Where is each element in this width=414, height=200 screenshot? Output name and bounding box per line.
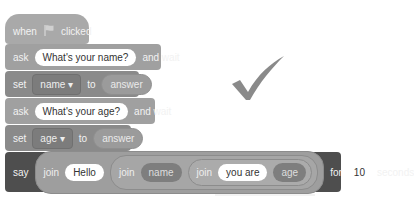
seconds-label: seconds xyxy=(377,167,414,178)
question-input[interactable]: What's your age? xyxy=(35,103,129,120)
say-for-seconds-block[interactable]: say join Hello join name join you are ag… xyxy=(5,152,341,192)
join-reporter[interactable]: join name join you are age xyxy=(110,155,318,190)
and-wait-label: and wait xyxy=(142,52,179,63)
for-label: for xyxy=(330,167,342,178)
ask-label: ask xyxy=(13,106,29,117)
say-label: say xyxy=(13,167,29,178)
set-name-block[interactable]: set name ▾ to answer xyxy=(5,71,139,97)
age-variable-reporter[interactable]: age xyxy=(273,163,306,182)
hello-input[interactable]: Hello xyxy=(65,164,104,181)
to-label: to xyxy=(79,133,87,144)
seconds-input[interactable]: 10 xyxy=(348,164,371,181)
variable-dropdown[interactable]: age ▾ xyxy=(32,128,72,149)
join-reporter[interactable]: join you are age xyxy=(188,159,313,186)
variable-dropdown[interactable]: name ▾ xyxy=(32,74,81,95)
set-age-block[interactable]: set age ▾ to answer xyxy=(5,125,131,151)
divider xyxy=(215,194,315,196)
question-input[interactable]: What's your name? xyxy=(35,49,137,66)
clicked-label: clicked xyxy=(61,26,92,37)
when-flag-clicked-block[interactable]: when clicked xyxy=(5,14,89,44)
you-are-input[interactable]: you are xyxy=(218,164,267,181)
join-label: join xyxy=(197,167,213,178)
set-label: set xyxy=(13,79,26,90)
and-wait-label: and wait xyxy=(134,106,171,117)
answer-reporter[interactable]: answer xyxy=(93,128,143,149)
name-variable-reporter[interactable]: name xyxy=(141,163,182,182)
ask-name-block[interactable]: ask What's your name? and wait xyxy=(5,44,161,70)
to-label: to xyxy=(87,79,95,90)
answer-reporter[interactable]: answer xyxy=(101,74,151,95)
join-label: join xyxy=(44,167,60,178)
when-label: when xyxy=(13,26,37,37)
green-flag-icon xyxy=(43,24,55,38)
ask-age-block[interactable]: ask What's your age? and wait xyxy=(5,98,155,124)
ask-label: ask xyxy=(13,52,29,63)
checkmark-icon xyxy=(228,54,288,108)
set-label: set xyxy=(13,133,26,144)
join-reporter[interactable]: join Hello join name join you are age xyxy=(35,151,325,194)
join-label: join xyxy=(119,167,135,178)
